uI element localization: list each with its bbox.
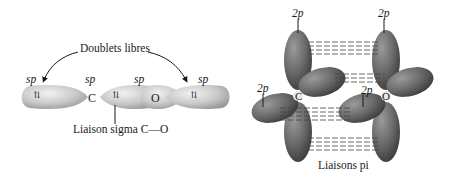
hybrid-label-sp-2: sp — [85, 74, 95, 86]
electron-pair-icon: ⇅ — [112, 91, 120, 100]
atom-label-o-right: O — [382, 91, 390, 102]
atom-label-c-right: C — [295, 91, 302, 102]
sp-orbital-c-lone-pair — [22, 85, 88, 109]
electron-pair-icon: ⇅ — [190, 91, 198, 100]
hybrid-label-sp-3: sp — [134, 74, 144, 86]
orbital-label-2p-o-left: 2p — [361, 85, 373, 97]
atom-label-c: C — [88, 92, 96, 104]
hybrid-label-sp-1: sp — [26, 74, 36, 86]
orbital-label-2p-c-left: 2p — [257, 83, 269, 95]
hybrid-label-sp-4: sp — [198, 74, 208, 86]
lone-pair-arrow-left — [44, 52, 78, 80]
electron-pair-icon: ⇅ — [33, 91, 41, 100]
pi-bonds-label: Liaisons pi — [318, 160, 369, 172]
orbital-label-2p-c-up: 2p — [292, 8, 304, 20]
atom-label-o: O — [151, 92, 160, 104]
lone-pair-arrow-right — [148, 52, 186, 80]
lone-pairs-label: Doublets libres — [80, 43, 150, 55]
orbital-label-2p-o-up: 2p — [378, 8, 390, 20]
sigma-bond-label: Liaison sigma C—O — [73, 124, 168, 136]
